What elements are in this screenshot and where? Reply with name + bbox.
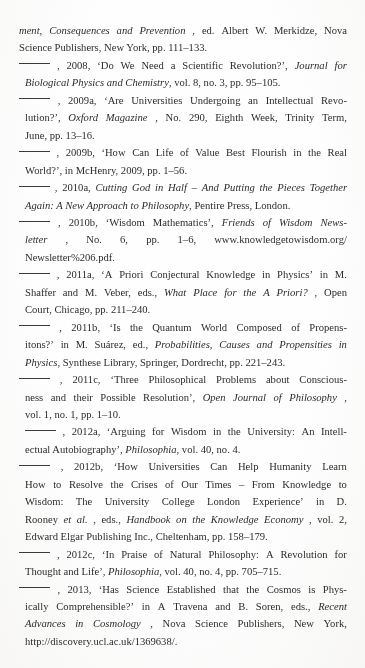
text-run: Possible xyxy=(100,389,135,406)
entry-line: ,2009b,‘HowCanLifeofValueBestFlourishint… xyxy=(19,144,347,161)
text-run: the xyxy=(111,476,124,493)
text-run: And xyxy=(202,179,219,196)
entry-line: ,2012c,‘InPraiseofNaturalPhilosophy:ARev… xyxy=(19,546,347,563)
entry-line: http://discovery.ucl.ac.uk/1369638/. xyxy=(19,633,347,650)
text-run: Need xyxy=(141,57,163,74)
text-run: Propens- xyxy=(309,319,347,336)
text-run: ‘How xyxy=(101,144,125,161)
text-run: A xyxy=(266,546,274,563)
text-run: Mathematics’, xyxy=(153,214,214,231)
text-run: Oxford xyxy=(68,109,98,126)
text-run: Resolution’, xyxy=(143,389,195,406)
text-run: Week, xyxy=(251,109,278,126)
text-run: The xyxy=(76,493,92,510)
text-run: Travena xyxy=(173,598,207,615)
text-run: Flourish xyxy=(251,144,286,161)
text-run: eds., xyxy=(101,511,120,528)
entry-line: ,2010b,‘WisdomMathematics’,FriendsofWisd… xyxy=(19,214,347,231)
text-run: Crises xyxy=(131,476,157,493)
text-run: Knowledge xyxy=(211,511,259,528)
text-run: , vol. 40, no. 4. xyxy=(177,444,241,455)
text-run: Together xyxy=(310,179,347,196)
bibliography-entry: ,2008,‘DoWeNeedaScientificRevolution?’,J… xyxy=(19,57,347,92)
text-run: June, pp. 13–16. xyxy=(25,130,95,141)
text-run: D. xyxy=(337,493,347,510)
text-run: Physics’ xyxy=(277,266,313,283)
text-run: , xyxy=(57,581,60,598)
entry-line: nessandtheirPossibleResolution’,OpenJour… xyxy=(19,389,347,406)
bibliography-entry: ,2009a,‘AreUniversitiesUndergoinganIntel… xyxy=(19,92,347,144)
text-run: Philosophy xyxy=(289,389,337,406)
text-run: ‘Do xyxy=(97,57,113,74)
text-run: , xyxy=(61,458,64,475)
entry-line: Edward Elgar Publishing Inc., Cheltenham… xyxy=(19,528,347,545)
entry-line: Court, Chicago, pp. 211–240. xyxy=(19,301,347,318)
text-run: Quantum xyxy=(152,319,191,336)
text-run: Knowledge xyxy=(206,266,255,283)
text-run: Trinity xyxy=(285,109,314,126)
bibliography-entry: ,2011a,‘APrioriConjecturalKnowledgeinPhy… xyxy=(19,266,347,318)
text-run: Newsletter%206.pdf. xyxy=(25,252,115,263)
text-run: Rooney xyxy=(25,511,58,528)
entry-line: AdvancesinCosmology,NovaSciencePublisher… xyxy=(19,615,347,632)
text-run: in xyxy=(293,144,301,161)
text-run: , Pentire Press, London. xyxy=(189,200,290,211)
text-run: for xyxy=(224,284,236,301)
text-run: in xyxy=(75,615,83,632)
text-run: College xyxy=(162,493,195,510)
text-run: Advances xyxy=(25,615,66,632)
entry-line: itons?’inM.Suárez,ed.,Probabilities,Caus… xyxy=(19,336,347,353)
text-run: the xyxy=(246,581,259,598)
text-run: Science xyxy=(126,581,159,598)
text-run: http://discovery.ucl.ac.uk/1369638/. xyxy=(25,636,177,647)
text-run: Wisdom xyxy=(171,423,206,440)
entry-line: vol. 1, no. 1, pp. 1–10. xyxy=(19,406,347,423)
text-run: , xyxy=(315,284,318,301)
text-run: , xyxy=(57,266,60,283)
text-run: 2010a, xyxy=(62,179,91,196)
text-run: itons?’ xyxy=(25,336,54,353)
text-run: Revolution xyxy=(281,546,328,563)
text-run: 2008, xyxy=(66,57,90,74)
text-run: Journal xyxy=(233,389,266,406)
text-run: A xyxy=(158,598,166,615)
text-run: , xyxy=(309,511,312,528)
text-run: Priori? xyxy=(276,284,307,301)
text-run: Resolve xyxy=(69,476,103,493)
text-run: Handbook xyxy=(126,511,170,528)
text-run: Albert xyxy=(221,22,248,39)
text-run: ed. xyxy=(202,22,215,39)
text-run: and xyxy=(117,22,133,39)
text-run: in xyxy=(142,598,150,615)
text-run: of xyxy=(291,319,300,336)
author-dash-rule-icon xyxy=(19,179,50,187)
entry-line: HowtoResolvetheCrisesofOurTimes–FromKnow… xyxy=(19,476,347,493)
text-run: , xyxy=(57,57,60,74)
text-run: 2012c, xyxy=(66,546,95,563)
text-run: University: xyxy=(247,423,295,440)
text-run: Propensities xyxy=(279,336,332,353)
text-run: of xyxy=(165,476,174,493)
text-run: Veber, xyxy=(104,284,131,301)
scanned-page: ment,ConsequencesandPrevention,ed.Albert… xyxy=(0,0,365,668)
text-run: Philosophy: xyxy=(208,546,259,563)
text-run: Thought and Life’, xyxy=(25,566,108,577)
text-run: M. xyxy=(335,266,347,283)
entry-line: ectual Autobiography’, Philosophia, vol.… xyxy=(19,441,347,458)
text-run: , xyxy=(93,511,96,528)
text-run: of xyxy=(273,389,281,406)
text-run: Conjectural xyxy=(150,266,199,283)
text-run: in xyxy=(320,266,328,283)
entry-line: Newsletter%206.pdf. xyxy=(19,249,347,266)
text-run: , vol. 8, no. 3, pp. 95–105. xyxy=(169,77,281,88)
text-run: pp. xyxy=(146,231,159,248)
text-run: in xyxy=(61,336,69,353)
text-run: Science Publishers, New York, pp. 111–13… xyxy=(19,42,207,53)
entry-line: ment,ConsequencesandPrevention,ed.Albert… xyxy=(19,22,347,39)
text-run: 2, xyxy=(339,511,347,528)
text-run: Revolution?’, xyxy=(230,57,288,74)
text-run: ‘Three xyxy=(110,371,138,388)
bibliography-entry: ,2012a,‘ArguingforWisdomintheUniversity:… xyxy=(19,423,347,458)
text-run: in xyxy=(155,179,163,196)
text-run: Help xyxy=(238,458,259,475)
